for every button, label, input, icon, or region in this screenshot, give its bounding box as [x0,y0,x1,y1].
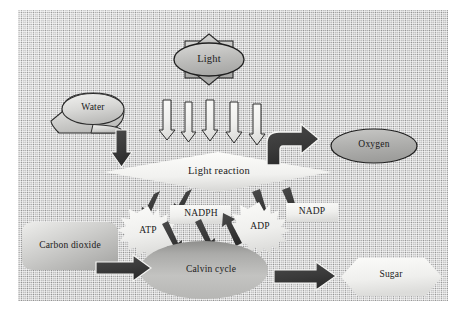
connector-light-reaction-to-oxygen [267,124,319,165]
diagram-canvas: Light Water Light reaction Oxygen Carbon… [0,0,459,319]
light-down-arrow [226,102,242,143]
node-nadph-label: NADPH [172,208,230,218]
connector-light-to-light-reaction [159,100,265,145]
node-calvin-cycle-label: Calvin cycle [176,264,246,274]
connector-water-to-light-reaction [111,130,132,167]
node-water-shape[interactable] [51,93,124,133]
node-nadp-label: NADP [288,206,336,216]
node-carbon-dioxide-label: Carbon dioxide [25,240,115,250]
node-light-reaction-label: Light reaction [176,165,262,176]
node-atp-label: ATP [129,225,167,235]
node-sugar-label: Sugar [366,269,416,279]
light-down-arrow [159,100,175,140]
light-down-arrow [202,100,218,141]
node-light-label: Light [185,53,233,64]
node-adp-label: ADP [241,221,279,231]
node-water-label: Water [69,102,117,112]
node-oxygen-label: Oxygen [348,139,400,149]
light-down-arrow [181,102,196,142]
connector-calvin-cycle-to-sugar [274,262,336,290]
light-down-arrow [249,104,265,145]
